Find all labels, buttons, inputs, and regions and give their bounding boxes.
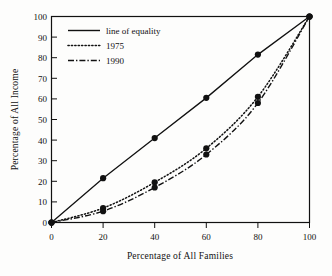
data-point-marker	[306, 13, 312, 19]
series-line	[52, 17, 310, 223]
y-tick-label: 50	[38, 115, 48, 125]
y-tick-label: 20	[38, 177, 48, 187]
x-tick-label: 40	[150, 232, 160, 242]
data-point-marker	[152, 135, 158, 141]
series-line	[52, 17, 310, 223]
legend-label-1975: 1975	[106, 41, 125, 51]
data-point-marker	[255, 94, 261, 100]
plot-frame	[52, 17, 310, 223]
data-point-marker	[255, 100, 261, 106]
data-point-marker	[100, 175, 106, 181]
data-point-marker	[48, 219, 54, 225]
y-tick-labels: 100 90 80 70 60 50 40 30 20 10 0	[34, 12, 48, 228]
legend-label-1990: 1990	[106, 56, 125, 66]
y-tick-label: 60	[38, 94, 48, 104]
x-tick-label: 20	[99, 232, 109, 242]
x-axis-title: Percentage of All Families	[127, 251, 233, 261]
y-tick-label: 90	[38, 33, 48, 43]
y-tick-label: 0	[43, 218, 48, 228]
x-tick-label: 80	[253, 232, 263, 242]
data-point-marker	[255, 52, 261, 58]
chart-legend: line of equality 1975 1990	[68, 26, 161, 66]
chart-canvas: 100 90 80 70 60 50 40 30 20 10 0 0 20 40…	[0, 0, 332, 276]
data-point-marker	[203, 151, 209, 157]
x-tick-label: 60	[202, 232, 212, 242]
data-point-marker	[100, 208, 106, 214]
series-line	[52, 17, 310, 223]
y-tick-label: 10	[38, 197, 48, 207]
x-tick-labels: 0 20 40 60 80 100	[49, 232, 317, 242]
y-tick-label: 70	[38, 74, 48, 84]
y-tick-label: 100	[34, 12, 48, 22]
data-point-marker	[152, 184, 158, 190]
y-axis-ticks	[52, 17, 58, 223]
y-tick-label: 30	[38, 156, 48, 166]
x-axis-ticks	[52, 223, 310, 229]
x-tick-label: 0	[49, 232, 54, 242]
y-tick-label: 80	[38, 53, 48, 63]
lorenz-curve-chart: 100 90 80 70 60 50 40 30 20 10 0 0 20 40…	[0, 0, 332, 276]
data-point-marker	[203, 145, 209, 151]
data-point-marker	[203, 95, 209, 101]
legend-label-line-of-equality: line of equality	[106, 26, 161, 36]
x-tick-label: 100	[303, 232, 317, 242]
y-axis-title: Percentage of All Income	[10, 69, 20, 171]
y-tick-label: 40	[38, 136, 48, 146]
